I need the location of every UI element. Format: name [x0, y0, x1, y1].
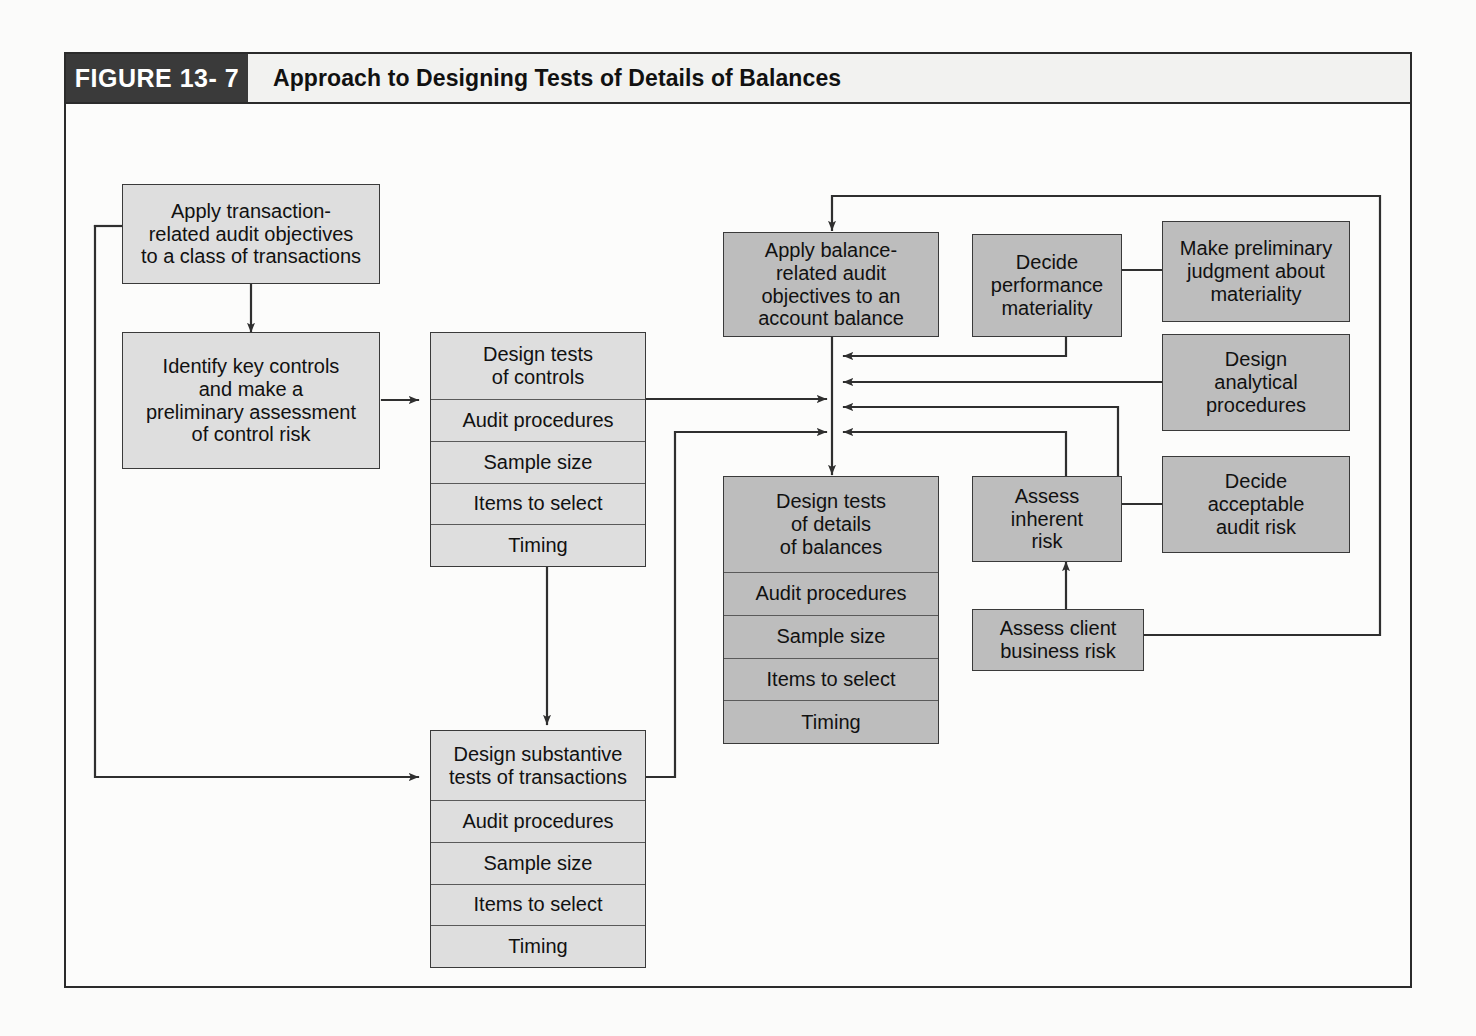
node-line: procedures: [1206, 394, 1306, 417]
edge-inherent-to-trunk: [844, 432, 1066, 476]
edge-materiality-to-trunk: [844, 337, 1066, 356]
node-line: risk: [1011, 530, 1083, 553]
stack-row[interactable]: Items to select: [431, 484, 645, 526]
stack-row[interactable]: Items to select: [724, 659, 938, 702]
node-line: of controls: [483, 366, 593, 389]
node-decide-performance-materiality[interactable]: Decide performance materiality: [972, 234, 1122, 337]
node-design-analytical-procedures[interactable]: Design analytical procedures: [1162, 334, 1350, 431]
stack-row[interactable]: Items to select: [431, 885, 645, 927]
node-line: Apply balance-: [758, 239, 904, 262]
node-line: Decide: [991, 251, 1103, 274]
node-line: Assess: [1011, 485, 1083, 508]
node-line: related audit: [758, 262, 904, 285]
node-line: Decide: [1208, 470, 1305, 493]
stack-header: Design tests of controls: [431, 333, 645, 400]
node-line: Design tests: [483, 343, 593, 366]
node-design-tests-of-controls[interactable]: Design tests of controls Audit procedure…: [430, 332, 646, 567]
edge-feedback-to-substantive: [95, 226, 418, 777]
node-line: judgment about: [1180, 260, 1332, 283]
node-assess-client-business-risk[interactable]: Assess client business risk: [972, 609, 1144, 671]
node-line: acceptable: [1208, 493, 1305, 516]
node-line: to a class of transactions: [141, 245, 361, 268]
figure-header: FIGURE 13- 7 Approach to Designing Tests…: [66, 54, 1410, 104]
node-line: Design: [1206, 348, 1306, 371]
stack-row[interactable]: Timing: [724, 701, 938, 743]
node-line: materiality: [1180, 283, 1332, 306]
node-line: Make preliminary: [1180, 237, 1332, 260]
node-line: performance: [991, 274, 1103, 297]
stack-row[interactable]: Timing: [431, 926, 645, 967]
node-make-preliminary-judgment[interactable]: Make preliminary judgment about material…: [1162, 221, 1350, 322]
stack-row[interactable]: Sample size: [724, 616, 938, 659]
node-line: tests of transactions: [449, 766, 627, 789]
node-assess-inherent-risk[interactable]: Assess inherent risk: [972, 476, 1122, 562]
stack-row[interactable]: Timing: [431, 525, 645, 566]
node-line: related audit objectives: [141, 223, 361, 246]
node-line: account balance: [758, 307, 904, 330]
figure-title: Approach to Designing Tests of Details o…: [248, 54, 841, 102]
node-line: business risk: [1000, 640, 1117, 663]
stack-row[interactable]: Sample size: [431, 843, 645, 885]
node-line: Identify key controls: [146, 355, 356, 378]
stack-row[interactable]: Audit procedures: [431, 801, 645, 843]
node-apply-transaction-objectives[interactable]: Apply transaction- related audit objecti…: [122, 184, 380, 284]
node-line: and make a: [146, 378, 356, 401]
node-line: inherent: [1011, 508, 1083, 531]
figure-frame: FIGURE 13- 7 Approach to Designing Tests…: [64, 52, 1412, 988]
node-line: of control risk: [146, 423, 356, 446]
node-line: Assess client: [1000, 617, 1117, 640]
node-line: of balances: [776, 536, 886, 559]
stack-header: Design substantive tests of transactions: [431, 731, 645, 801]
node-line: Apply transaction-: [141, 200, 361, 223]
node-apply-balance-objectives[interactable]: Apply balance- related audit objectives …: [723, 232, 939, 337]
node-identify-key-controls[interactable]: Identify key controls and make a prelimi…: [122, 332, 380, 469]
node-design-substantive-tests[interactable]: Design substantive tests of transactions…: [430, 730, 646, 968]
diagram-canvas: Apply transaction- related audit objecti…: [66, 104, 1410, 988]
stack-row[interactable]: Sample size: [431, 442, 645, 484]
node-line: Design tests: [776, 490, 886, 513]
node-line: objectives to an: [758, 285, 904, 308]
node-line: materiality: [991, 297, 1103, 320]
stack-row[interactable]: Audit procedures: [431, 400, 645, 442]
node-line: audit risk: [1208, 516, 1305, 539]
node-line: preliminary assessment: [146, 401, 356, 424]
node-line: of details: [776, 513, 886, 536]
node-line: analytical: [1206, 371, 1306, 394]
figure-number-badge: FIGURE 13- 7: [66, 54, 248, 102]
node-design-tests-of-details[interactable]: Design tests of details of balances Audi…: [723, 476, 939, 744]
stack-header: Design tests of details of balances: [724, 477, 938, 573]
stack-row[interactable]: Audit procedures: [724, 573, 938, 616]
node-decide-acceptable-audit-risk[interactable]: Decide acceptable audit risk: [1162, 456, 1350, 553]
node-line: Design substantive: [449, 743, 627, 766]
